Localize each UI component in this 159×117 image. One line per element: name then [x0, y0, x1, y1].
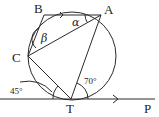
label-c: C — [12, 50, 21, 65]
label-beta: β — [40, 32, 47, 45]
label-b: B — [34, 1, 43, 16]
label-p: P — [144, 101, 151, 116]
label-angle-45: 45° — [10, 86, 23, 96]
label-t: T — [66, 101, 74, 116]
label-a: A — [104, 2, 114, 17]
angle-arc-alpha — [85, 15, 87, 22]
chord-ct — [28, 56, 71, 99]
label-alpha: α — [72, 16, 80, 29]
geometry-diagram: B A C T P α β 45° 70° — [0, 0, 159, 117]
label-angle-70: 70° — [84, 76, 97, 86]
leader-line-45 — [20, 81, 52, 92]
chord-ca — [28, 15, 101, 56]
